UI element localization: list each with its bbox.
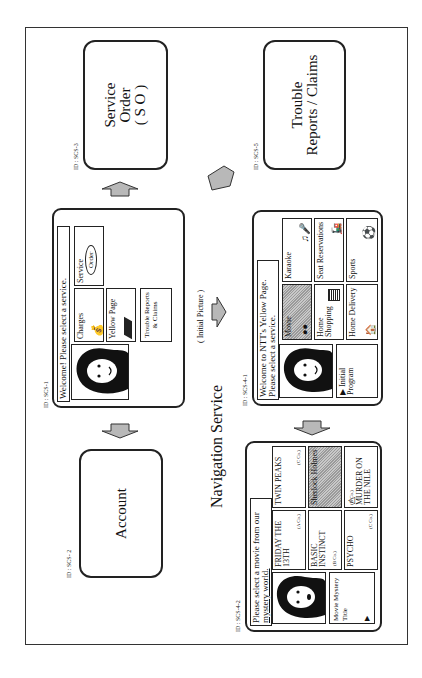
karaoke-tile[interactable]: Karaoke ♫🎤 bbox=[282, 218, 312, 282]
service-order-line2: Order bbox=[118, 88, 133, 123]
scs42-message: Please select a movie from our mystery w… bbox=[250, 498, 272, 626]
film-reel-icon: ●● bbox=[301, 324, 309, 335]
service-order-line1: Service bbox=[103, 83, 118, 128]
book-icon bbox=[124, 317, 132, 340]
account-label: Account bbox=[114, 488, 129, 539]
microphone-icon: ♫🎤 bbox=[301, 223, 309, 243]
money-bag-icon: 💰 bbox=[93, 323, 101, 337]
friday-label: FRIDAY THE 13TH bbox=[274, 521, 291, 567]
home-delivery-label: Home Delivery bbox=[348, 287, 357, 337]
node-id-scs5: ID : SCS-5 bbox=[253, 143, 259, 170]
arrow-scs41-to-scs42 bbox=[293, 420, 331, 436]
basic-instinct-label: BASIC INSTINCT bbox=[310, 531, 327, 567]
navigation-service-diagram: ID : SCS-3 Service Order ( S O ) ID : SC… bbox=[0, 0, 422, 678]
sports-label: Sports bbox=[348, 259, 357, 279]
psycho-label: PSYCHO bbox=[346, 535, 355, 567]
twin-peaks-company: (C Co.) bbox=[295, 450, 303, 465]
pyramid-icon: △ bbox=[347, 497, 355, 504]
arrow-scs1-to-scs3 bbox=[101, 181, 139, 197]
movie-basic-instinct-tile[interactable]: BASIC INSTINCT (B Co.) bbox=[308, 510, 342, 570]
operator-face-image bbox=[71, 344, 129, 400]
trouble-reports-tile[interactable]: Trouble Reports & Claims bbox=[140, 288, 172, 342]
initial-program-button[interactable]: ▶ Initial Program bbox=[336, 344, 378, 398]
movie-tile[interactable]: Movie ●● bbox=[282, 284, 312, 340]
karaoke-label: Karaoke bbox=[284, 252, 293, 279]
initial-picture-label: ( Initial Picture ) bbox=[196, 290, 205, 343]
trouble-reports-label: Trouble Reports & Claims bbox=[143, 292, 159, 337]
movie-mystery-title-label: Movie Mystery Title bbox=[332, 578, 349, 621]
scs42-message-line2: mystery world. bbox=[261, 501, 270, 623]
play-triangle-icon: ▶ bbox=[363, 616, 372, 621]
node-id-scs2: ID : SCS- 2 bbox=[66, 550, 72, 578]
order-oval-icon: Order bbox=[85, 245, 97, 275]
service-order-tile[interactable]: Service Order bbox=[74, 226, 104, 286]
house-icon: 🏠 bbox=[367, 324, 375, 336]
diagram-title: Navigation Service bbox=[208, 385, 226, 508]
scs1-initial-screen[interactable]: Welcome! Please select a service. Charge… bbox=[52, 208, 185, 408]
node-id-scs3: ID : SCS-3 bbox=[73, 143, 79, 170]
yellow-page-label: Yellow Page bbox=[108, 299, 117, 339]
movie-psycho-tile[interactable]: PSYCHO (C Co.) bbox=[344, 510, 378, 570]
scs41-yellow-page-screen[interactable]: Welcome to NTT's Yellow Page. Please sel… bbox=[252, 210, 383, 406]
scs41-welcome-message: Welcome to NTT's Yellow Page. Please sel… bbox=[257, 260, 279, 400]
seat-reservations-label: Seat Reservations bbox=[316, 222, 325, 279]
soccer-ball-icon: ⚽ bbox=[365, 225, 373, 240]
psycho-company: (C Co.) bbox=[367, 514, 375, 529]
home-shopping-tile[interactable]: Home Shopping bbox=[314, 284, 344, 340]
basic-instinct-company: (B Co.) bbox=[331, 551, 339, 566]
arrow-to-scs5-diagonal bbox=[206, 164, 236, 194]
node-id-scs1: ID : SCS-1 bbox=[43, 381, 49, 408]
charges-label: Charges bbox=[76, 313, 85, 339]
service-order-line3: ( S O ) bbox=[133, 85, 148, 125]
node-id-scs42: ID : SCS-4-2 bbox=[235, 600, 241, 632]
sports-tile[interactable]: Sports ⚽ bbox=[346, 218, 378, 282]
trouble-reports-node[interactable]: Trouble Reports / Claims bbox=[263, 40, 346, 170]
seat-reservations-tile[interactable]: Seat Reservations 🚂 bbox=[314, 218, 344, 282]
trouble-line1: Trouble bbox=[290, 82, 305, 129]
movie-sherlock-holmes-tile[interactable]: Sherlock Holmes bbox=[308, 446, 342, 508]
service-order-node[interactable]: Service Order ( S O ) bbox=[83, 40, 168, 170]
movie-murder-nile-tile[interactable]: (B Co.) MURDER ON THE NILE △ bbox=[344, 446, 378, 508]
arrow-scs1-to-scs2 bbox=[101, 423, 139, 439]
account-node[interactable]: Account bbox=[79, 449, 163, 578]
service-label: Service bbox=[76, 259, 85, 283]
movie-twin-peaks-tile[interactable]: TWIN PEAKS (C Co.) bbox=[272, 446, 306, 508]
arrow-initial-picture-to-scs41 bbox=[211, 296, 227, 328]
friday-company: (A Co.) bbox=[295, 514, 303, 529]
home-shopping-label: Home Shopping bbox=[316, 306, 333, 337]
twin-peaks-label: TWIN PEAKS bbox=[274, 457, 283, 505]
node-id-scs41: ID : SCS-4-1 bbox=[242, 374, 248, 406]
movie-mystery-title-button[interactable]: Movie Mystery Title ▶ bbox=[329, 572, 375, 624]
scs41-message-line2: Please select a service. bbox=[268, 263, 277, 397]
operator-face-image bbox=[272, 572, 326, 624]
sherlock-holmes-label: Sherlock Holmes bbox=[310, 450, 319, 505]
charges-tile[interactable]: Charges 💰 bbox=[74, 288, 104, 342]
movie-label: Movie bbox=[284, 316, 293, 337]
scs42-movie-screen[interactable]: Please select a movie from our mystery w… bbox=[245, 441, 382, 632]
home-delivery-tile[interactable]: Home Delivery 🏠 bbox=[346, 284, 378, 340]
trouble-line2: Reports / Claims bbox=[305, 55, 320, 156]
movie-friday-tile[interactable]: FRIDAY THE 13TH (A Co.) bbox=[272, 510, 306, 570]
yellow-page-tile[interactable]: Yellow Page bbox=[106, 288, 136, 342]
operator-face-image bbox=[279, 344, 333, 398]
train-icon: 🚂 bbox=[333, 223, 341, 235]
scs1-welcome-message: Welcome! Please select a service. bbox=[57, 226, 70, 402]
catalog-icon bbox=[328, 289, 340, 301]
murder-nile-label: MURDER ON THE NILE bbox=[355, 457, 372, 505]
